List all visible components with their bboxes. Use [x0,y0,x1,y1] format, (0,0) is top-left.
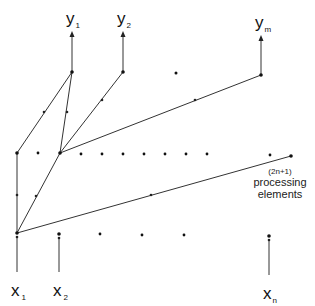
midpoint-arrowheads [16,99,271,242]
input-nodes [15,231,271,238]
label-x1: x1 [11,281,27,302]
hidden-layer-edges [17,153,291,233]
input-labels: x1 x2 xn [11,281,277,305]
output-layer-edges [17,34,261,153]
input-edges [17,237,269,275]
label-y1: y1 [66,9,81,30]
label-xn: xn [263,284,277,305]
annotation-count: (2n+1) [268,167,292,176]
label-y2: y2 [117,9,132,30]
output-labels: y1 y2 ym [66,9,272,34]
network-diagram: y1 y2 ym x1 x2 xn (2n+1) processing elem… [0,0,315,306]
annotation-line3: elements [258,188,303,200]
annotation-line2: processing [253,176,306,188]
label-x2: x2 [53,281,69,302]
output-nodes [70,70,263,77]
hidden-nodes [15,151,293,158]
processing-elements-annotation: (2n+1) processing elements [253,167,306,200]
label-ym: ym [255,13,272,34]
